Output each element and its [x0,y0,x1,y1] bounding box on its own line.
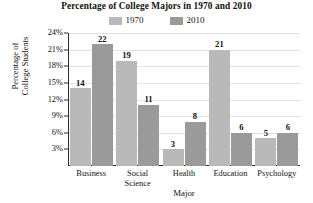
bar-group: 56 [255,33,298,166]
bar-value-label: 19 [122,51,131,60]
bar-value-label: 22 [98,35,107,44]
x-label-line1: Social [114,169,160,179]
x-axis-title: Major [68,189,300,198]
bar-value-label: 14 [76,79,85,88]
bar-value-label: 5 [264,129,268,138]
legend-label-1970: 1970 [126,16,144,25]
bar-education-2010: 6 [231,133,252,166]
y-axis-ticks: 3%6%9%12%15%18%21%24% [40,33,68,166]
bar-value-label: 21 [215,40,224,49]
bar-business-2010: 22 [92,44,113,166]
y-axis-title-line2: College Students [20,6,30,126]
bar-education-1970: 21 [209,50,230,166]
bar-value-label: 3 [171,140,175,149]
y-tick-label: 18% [48,62,63,70]
bar-value-label: 11 [145,95,153,104]
x-label-education: Education [207,169,253,179]
bars-layer: 142219113821656 [68,33,300,166]
x-label-business: Business [68,169,114,179]
x-label-line1: Business [68,169,114,179]
bar-health-1970: 3 [163,149,184,166]
y-axis-title: Percentage of College Students [10,6,30,126]
x-label-psychology: Psychology [254,169,300,179]
legend-item-2010: 2010 [170,16,205,25]
bar-social-science-1970: 19 [116,61,137,166]
y-tick-label: 21% [48,45,63,53]
bar-business-1970: 14 [70,88,91,166]
x-label-line1: Health [161,169,207,179]
bar-group: 1422 [70,33,113,166]
bar-value-label: 6 [239,123,243,132]
y-axis-title-line1: Percentage of [10,6,20,126]
y-tick-label: 3% [52,145,63,153]
bar-group: 216 [209,33,252,166]
bar-chart: Percentage of College Majors in 1970 and… [0,0,313,203]
y-tick-label: 15% [48,79,63,87]
chart-legend: 1970 2010 [0,16,313,25]
bar-group: 38 [163,33,206,166]
legend-swatch-1970 [109,17,122,25]
x-label-line1: Psychology [254,169,300,179]
bar-social-science-2010: 11 [138,105,159,166]
y-tick-label: 12% [48,95,63,103]
bar-group: 1911 [116,33,159,166]
x-label-health: Health [161,169,207,179]
bar-psychology-1970: 5 [255,138,276,166]
y-tick-label: 6% [52,129,63,137]
x-label-social-science: SocialScience [114,169,160,189]
x-label-line2: Science [114,179,160,189]
bar-health-2010: 8 [185,122,206,166]
bar-psychology-2010: 6 [277,133,298,166]
legend-label-2010: 2010 [187,16,205,25]
legend-swatch-2010 [170,17,183,25]
x-label-line1: Education [207,169,253,179]
legend-item-1970: 1970 [109,16,144,25]
y-tick-label: 9% [52,112,63,120]
chart-title: Percentage of College Majors in 1970 and… [0,1,313,11]
bar-value-label: 8 [193,112,197,121]
bar-value-label: 6 [286,123,290,132]
y-tick-label: 24% [48,29,63,37]
